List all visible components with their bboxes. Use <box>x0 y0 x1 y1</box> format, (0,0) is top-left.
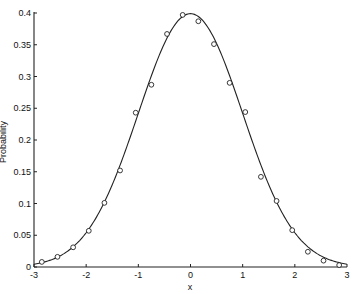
data-point-marker <box>227 80 232 85</box>
data-point-marker <box>165 32 170 37</box>
x-tick-label: 2 <box>292 270 297 280</box>
data-point-marker <box>243 110 248 115</box>
data-point-marker <box>133 110 138 115</box>
normal-curve-path <box>34 14 347 265</box>
data-point-marker <box>290 228 295 233</box>
data-point-marker <box>180 13 185 18</box>
data-point-marker <box>259 174 264 179</box>
y-tick-label: 0.3 <box>18 72 31 82</box>
data-point-marker <box>86 228 91 233</box>
y-tick-label: 0.35 <box>13 40 31 50</box>
data-point-marker <box>212 42 217 47</box>
data-point-marker <box>196 19 201 24</box>
y-tick-label: 0.25 <box>13 103 31 113</box>
x-tick-label: -3 <box>30 270 38 280</box>
data-point-marker <box>337 263 342 268</box>
data-point-marker <box>149 82 154 87</box>
x-tick-label: -1 <box>134 270 142 280</box>
data-point-marker <box>71 245 76 250</box>
data-point-marker <box>305 249 310 254</box>
x-tick-label: 3 <box>344 270 349 280</box>
density-curve <box>34 14 347 265</box>
y-tick-label: 0.15 <box>13 167 31 177</box>
y-tick-label: 0.4 <box>18 8 31 18</box>
data-point-marker <box>102 200 107 205</box>
axes: 00.050.10.150.20.250.30.350.4-3-2-10123 <box>13 8 349 280</box>
data-point-marker <box>321 258 326 263</box>
x-tick-label: 0 <box>188 270 193 280</box>
chart-plot: 00.050.10.150.20.250.30.350.4-3-2-10123 … <box>0 0 354 294</box>
x-tick-label: 1 <box>240 270 245 280</box>
y-tick-label: 0.1 <box>18 199 31 209</box>
data-points <box>39 13 341 268</box>
y-tick-label: 0.2 <box>18 135 31 145</box>
data-point-marker <box>55 254 60 259</box>
data-point-marker <box>118 168 123 173</box>
x-tick-label: -2 <box>82 270 90 280</box>
y-axis-label: Probability <box>0 120 8 163</box>
x-axis-label: x <box>188 282 193 292</box>
data-point-marker <box>274 199 279 204</box>
y-tick-label: 0.05 <box>13 230 31 240</box>
data-point-marker <box>39 260 44 265</box>
